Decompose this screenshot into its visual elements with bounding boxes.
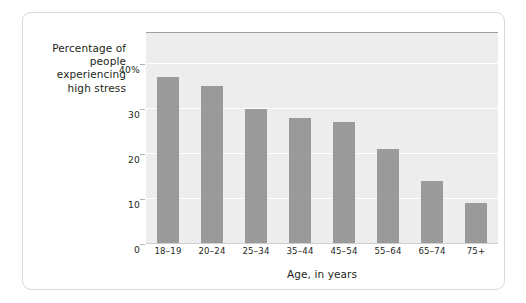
x-tick-label: 25–34 [242, 246, 269, 256]
x-tick-label: 20–24 [198, 246, 225, 256]
bar[interactable] [157, 77, 179, 244]
y-tick-mark-20 [140, 154, 145, 155]
y-tick-mark-0 [140, 244, 145, 245]
y-tick-mark-40 [140, 64, 145, 65]
gridline-40 [146, 63, 498, 64]
y-tick-mark-30 [140, 109, 145, 110]
bar[interactable] [333, 122, 355, 244]
x-tick-label: 35–44 [286, 246, 313, 256]
plot-area [146, 32, 498, 244]
bar[interactable] [289, 118, 311, 244]
x-tick-label: 75+ [467, 246, 486, 256]
x-axis-title: Age, in years [146, 268, 498, 280]
bar[interactable] [421, 181, 443, 244]
bar[interactable] [245, 109, 267, 244]
y-tick-mark-10 [140, 199, 145, 200]
x-axis-baseline [146, 243, 498, 244]
x-tick-label: 18–19 [154, 246, 181, 256]
x-tick-label: 65–74 [418, 246, 445, 256]
x-tick-label: 45–54 [330, 246, 357, 256]
chart-figure: Percentage of people experiencing high s… [0, 0, 526, 303]
x-axis-tick-labels: 18–1920–2425–3435–4445–5455–6465–7475+ [146, 246, 498, 262]
gridline-30 [146, 108, 498, 109]
bar[interactable] [465, 203, 487, 244]
gridline-20 [146, 153, 498, 154]
bar[interactable] [201, 86, 223, 244]
gridline-10 [146, 198, 498, 199]
y-axis-tick-labels: 010203040% [96, 32, 140, 243]
bar[interactable] [377, 149, 399, 244]
x-tick-label: 55–64 [374, 246, 401, 256]
